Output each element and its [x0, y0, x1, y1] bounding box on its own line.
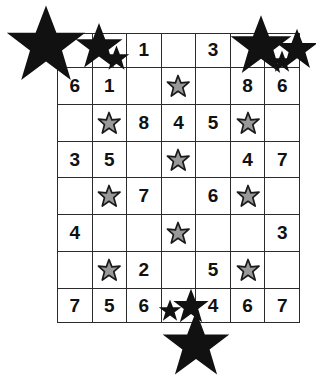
grid-table: 1361868453547764325756467: [57, 33, 300, 323]
gray-star-icon: [97, 184, 121, 208]
grid-cell[interactable]: [161, 178, 196, 215]
grid-cell[interactable]: [161, 67, 196, 104]
grid-cell[interactable]: 3: [265, 215, 300, 252]
grid-cell[interactable]: [161, 215, 196, 252]
gray-star-icon: [236, 111, 260, 135]
grid-cell[interactable]: [265, 252, 300, 289]
gray-star-icon: [166, 221, 190, 245]
black-star-icon: [160, 310, 232, 375]
grid-cell[interactable]: [127, 141, 162, 178]
black-star-icon: [103, 45, 130, 71]
grid-cell[interactable]: [230, 252, 265, 289]
puzzle-grid[interactable]: 1361868453547764325756467: [57, 33, 300, 323]
grid-cell[interactable]: [92, 178, 127, 215]
grid-cell[interactable]: 8: [127, 104, 162, 141]
grid-row: 76: [58, 178, 300, 215]
gray-star-icon: [236, 184, 260, 208]
grid-cell[interactable]: 7: [58, 289, 93, 323]
grid-cell[interactable]: [92, 252, 127, 289]
grid-body: 1361868453547764325756467: [58, 34, 300, 323]
grid-cell[interactable]: 5: [196, 252, 231, 289]
grid-row: 845: [58, 104, 300, 141]
grid-cell[interactable]: [127, 67, 162, 104]
grid-row: 3547: [58, 141, 300, 178]
gray-star-icon: [97, 111, 121, 135]
grid-cell[interactable]: 7: [265, 289, 300, 323]
grid-cell[interactable]: 7: [265, 141, 300, 178]
grid-cell[interactable]: 1: [92, 67, 127, 104]
grid-cell[interactable]: [92, 104, 127, 141]
grid-row: 25: [58, 252, 300, 289]
grid-cell[interactable]: [230, 215, 265, 252]
grid-cell[interactable]: [161, 252, 196, 289]
grid-cell[interactable]: [230, 104, 265, 141]
grid-cell[interactable]: [196, 67, 231, 104]
grid-cell[interactable]: [265, 178, 300, 215]
grid-cell[interactable]: 3: [196, 34, 231, 68]
grid-cell[interactable]: 6: [196, 178, 231, 215]
grid-cell[interactable]: 3: [58, 141, 93, 178]
grid-cell[interactable]: [127, 215, 162, 252]
gray-star-icon: [166, 74, 190, 98]
grid-cell[interactable]: 6: [230, 289, 265, 323]
grid-cell[interactable]: 4: [161, 104, 196, 141]
gray-star-icon: [166, 148, 190, 172]
gray-star-icon: [97, 258, 121, 282]
grid-cell[interactable]: [196, 215, 231, 252]
grid-row: 43: [58, 215, 300, 252]
grid-cell[interactable]: 5: [92, 141, 127, 178]
grid-cell[interactable]: 6: [127, 289, 162, 323]
grid-cell[interactable]: 4: [230, 141, 265, 178]
grid-cell[interactable]: [58, 252, 93, 289]
grid-cell[interactable]: [92, 215, 127, 252]
grid-cell[interactable]: 7: [127, 178, 162, 215]
grid-cell[interactable]: 5: [196, 104, 231, 141]
grid-cell[interactable]: [196, 141, 231, 178]
grid-cell[interactable]: 1: [127, 34, 162, 68]
grid-cell[interactable]: 2: [127, 252, 162, 289]
black-star-icon: [270, 50, 294, 73]
grid-cell[interactable]: 5: [92, 289, 127, 323]
grid-cell[interactable]: [265, 104, 300, 141]
grid-cell[interactable]: [58, 104, 93, 141]
grid-cell[interactable]: [230, 178, 265, 215]
grid-cell[interactable]: [161, 141, 196, 178]
gray-star-icon: [236, 258, 260, 282]
grid-cell[interactable]: [58, 178, 93, 215]
grid-cell[interactable]: [161, 34, 196, 68]
grid-cell[interactable]: 4: [58, 215, 93, 252]
